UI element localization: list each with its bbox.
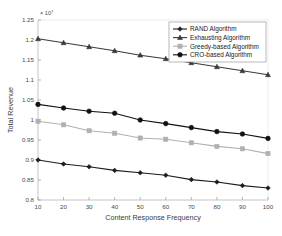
y-axis-title: Total Revenue bbox=[6, 87, 15, 133]
marker-diamond bbox=[87, 165, 92, 170]
marker-diamond bbox=[138, 171, 143, 176]
y-tick-label: 0.8 bbox=[25, 196, 34, 203]
series-line bbox=[38, 160, 268, 188]
x-tick-label: 90 bbox=[239, 203, 246, 210]
marker-circle bbox=[189, 125, 194, 130]
marker-circle bbox=[163, 121, 168, 126]
series-1 bbox=[36, 158, 271, 191]
x-tick-label: 50 bbox=[137, 203, 144, 210]
marker-diamond bbox=[215, 180, 220, 185]
x-tick-label: 30 bbox=[86, 203, 93, 210]
marker-square bbox=[178, 44, 182, 48]
marker-circle bbox=[215, 129, 220, 134]
marker-diamond bbox=[240, 183, 245, 188]
x-tick-label: 100 bbox=[263, 203, 274, 210]
y-axis-exponent: 7 bbox=[51, 9, 54, 14]
x-tick-label: 10 bbox=[35, 203, 42, 210]
x-tick-label: 40 bbox=[111, 203, 118, 210]
y-tick-label: 0.9 bbox=[25, 156, 34, 163]
legend-label: Exhausting Algorithm bbox=[190, 34, 250, 42]
marker-square bbox=[164, 137, 168, 141]
y-tick-label: 1.25 bbox=[22, 16, 35, 23]
marker-diamond bbox=[266, 186, 271, 191]
y-tick-label: 1.05 bbox=[22, 96, 35, 103]
marker-square bbox=[240, 147, 244, 151]
series-line bbox=[38, 121, 268, 153]
marker-square bbox=[138, 136, 142, 140]
marker-square bbox=[36, 119, 40, 123]
marker-circle bbox=[266, 136, 271, 141]
marker-circle bbox=[36, 102, 41, 107]
series-3 bbox=[36, 119, 270, 156]
y-tick-label: 0.85 bbox=[22, 176, 35, 183]
legend-label: Greedy-based Algorithm bbox=[190, 43, 259, 51]
legend-label: RAND Algorithm bbox=[190, 25, 237, 33]
y-tick-label: 1 bbox=[31, 116, 35, 123]
y-tick-label: 1.15 bbox=[22, 56, 35, 63]
marker-diamond bbox=[36, 158, 41, 163]
marker-triangle bbox=[36, 36, 41, 41]
marker-square bbox=[87, 129, 91, 133]
x-tick-label: 60 bbox=[162, 203, 169, 210]
y-tick-label: 1.2 bbox=[25, 36, 34, 43]
x-tick-label: 80 bbox=[213, 203, 220, 210]
marker-circle bbox=[61, 106, 66, 111]
marker-circle bbox=[178, 53, 183, 58]
marker-diamond bbox=[163, 173, 168, 178]
y-tick-label: 0.95 bbox=[22, 136, 35, 143]
x-axis-title: Content Response Frequency bbox=[105, 213, 201, 222]
legend: RAND AlgorithmExhausting AlgorithmGreedy… bbox=[169, 22, 266, 62]
marker-circle bbox=[240, 132, 245, 137]
marker-square bbox=[215, 144, 219, 148]
legend-label: CRO-based Algorithm bbox=[190, 51, 252, 59]
series-line bbox=[38, 104, 268, 138]
marker-diamond bbox=[112, 168, 117, 173]
x-tick-label: 70 bbox=[188, 203, 195, 210]
line-chart: 0.80.850.90.9511.051.11.151.21.251020304… bbox=[0, 0, 282, 236]
marker-circle bbox=[138, 118, 143, 123]
y-tick-label: 1.1 bbox=[25, 76, 34, 83]
marker-square bbox=[189, 141, 193, 145]
marker-diamond bbox=[189, 177, 194, 182]
marker-circle bbox=[112, 111, 117, 116]
y-axis-multiplier: × 107 bbox=[40, 9, 54, 16]
marker-diamond bbox=[61, 162, 66, 167]
series-4 bbox=[36, 102, 271, 141]
marker-square bbox=[61, 123, 65, 127]
x-tick-label: 20 bbox=[60, 203, 67, 210]
marker-square bbox=[113, 131, 117, 135]
marker-circle bbox=[87, 109, 92, 114]
marker-square bbox=[266, 152, 270, 156]
chart-figure: 0.80.850.90.9511.051.11.151.21.251020304… bbox=[0, 0, 282, 236]
